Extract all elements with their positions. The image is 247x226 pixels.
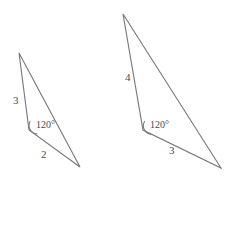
right-triangle-angle-label: 120° [150, 120, 169, 130]
left-triangle-angle-label: 120° [36, 120, 55, 130]
left-triangle-side-a-label: 3 [13, 95, 19, 106]
geometry-figure: 3 120° 2 4 120° 3 [0, 0, 247, 226]
left-triangle-side-b-label: 2 [41, 149, 47, 160]
right-triangle-side-a-label: 4 [125, 72, 131, 83]
left-triangle [19, 53, 80, 167]
left-triangle-outline [19, 53, 80, 167]
triangles-canvas [0, 0, 247, 226]
right-triangle-side-b-label: 3 [169, 145, 175, 156]
